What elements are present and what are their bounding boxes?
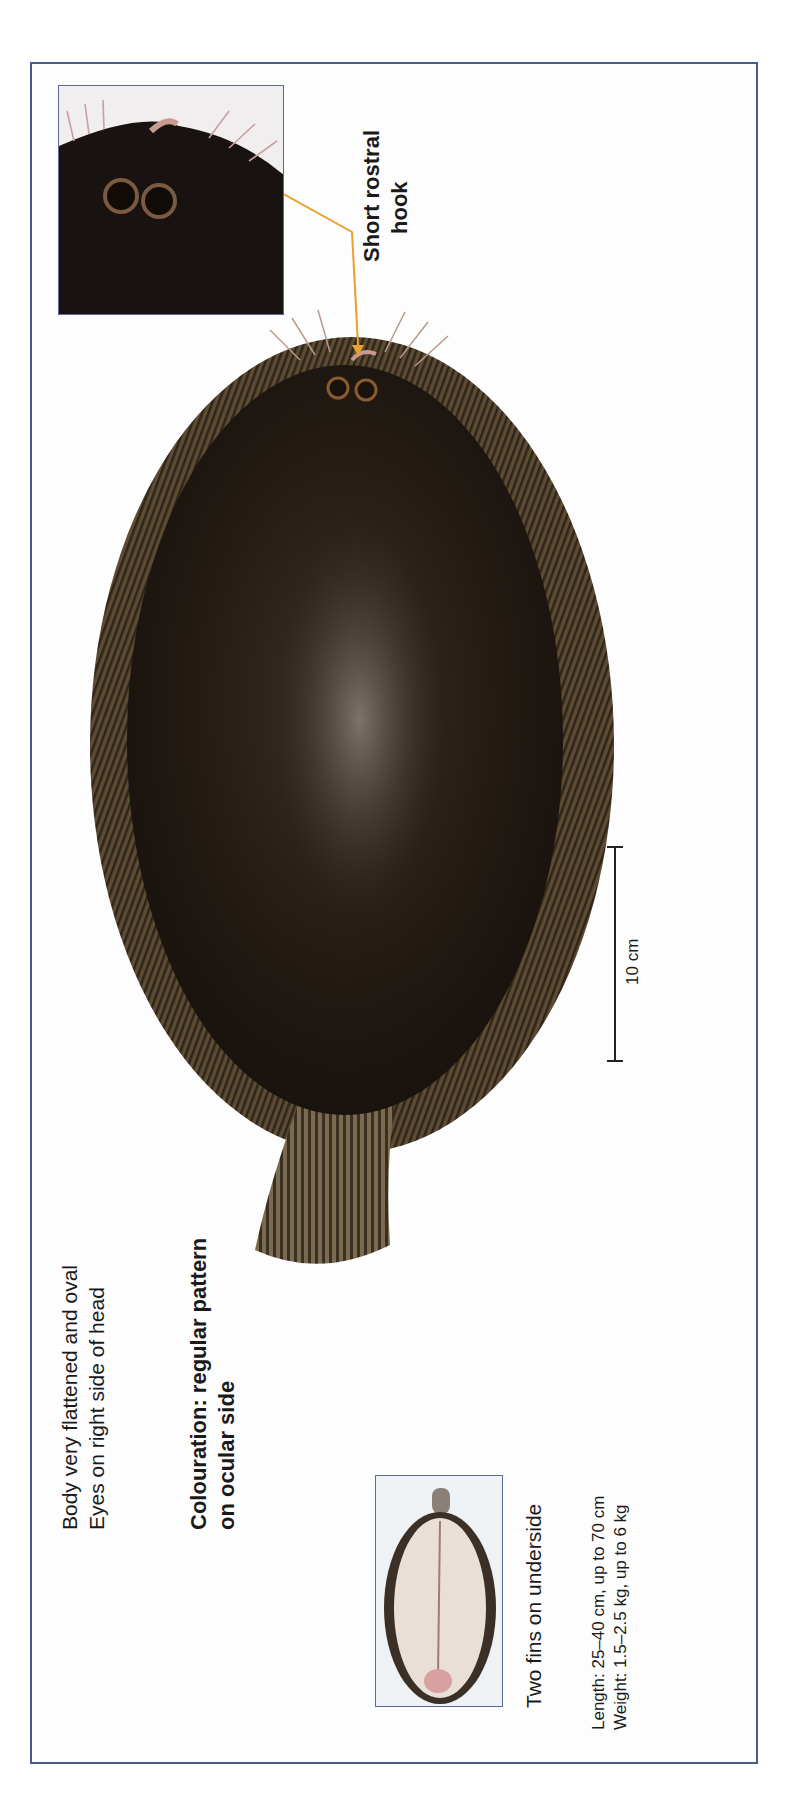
body-shape-label: Body very flattened and oval Eyes on rig… [56, 1265, 110, 1530]
colouration-line2: on ocular side [213, 1238, 241, 1530]
underside-text: Two fins on underside [520, 1504, 547, 1708]
scale-label: 10 cm [622, 939, 644, 985]
head-closeup-inset [58, 85, 284, 315]
colouration-label: Colouration: regular pattern on ocular s… [185, 1238, 241, 1530]
scale-text: 10 cm [622, 939, 644, 985]
colouration-line1: Colouration: regular pattern [185, 1238, 213, 1530]
eye-position-line: Eyes on right side of head [83, 1265, 110, 1530]
underside-inset [375, 1475, 503, 1707]
scale-bar [607, 847, 623, 1061]
length-text: Length: 25–40 cm, up to 70 cm [588, 1496, 610, 1730]
rostral-hook-label: Short rostral hook [358, 130, 414, 262]
underside-label: Two fins on underside [520, 1504, 547, 1708]
body-shape-line1: Body very flattened and oval [56, 1265, 83, 1530]
rostral-line2: hook [386, 130, 414, 262]
rostral-line1: Short rostral [358, 130, 386, 262]
weight-text: Weight: 1.5–2.5 kg, up to 6 kg [610, 1496, 632, 1730]
size-label: Length: 25–40 cm, up to 70 cm Weight: 1.… [588, 1496, 632, 1730]
